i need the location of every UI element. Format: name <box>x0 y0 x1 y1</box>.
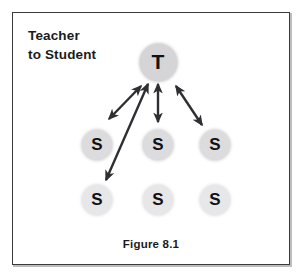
figure-title-line-2: to Student <box>28 45 96 64</box>
student-node-3: S <box>200 130 230 160</box>
student-node-4-label: S <box>91 190 102 210</box>
student-node-2: S <box>143 130 173 160</box>
figure-title-line-1: Teacher <box>28 26 96 45</box>
student-node-1-label: S <box>91 135 102 155</box>
student-node-4: S <box>82 185 112 215</box>
student-node-2-label: S <box>152 135 163 155</box>
student-node-5: S <box>143 185 173 215</box>
student-node-5-label: S <box>152 190 163 210</box>
figure-title: Teacher to Student <box>28 26 96 64</box>
teacher-node: T <box>140 44 177 81</box>
student-node-3-label: S <box>209 135 220 155</box>
figure-page: Teacher to Student TSSSSSS Figure 8.1 <box>0 0 302 278</box>
teacher-node-label: T <box>152 50 165 74</box>
student-node-1: S <box>82 130 112 160</box>
student-node-6-label: S <box>209 190 220 210</box>
student-node-6: S <box>200 185 230 215</box>
figure-caption: Figure 8.1 <box>0 238 302 250</box>
